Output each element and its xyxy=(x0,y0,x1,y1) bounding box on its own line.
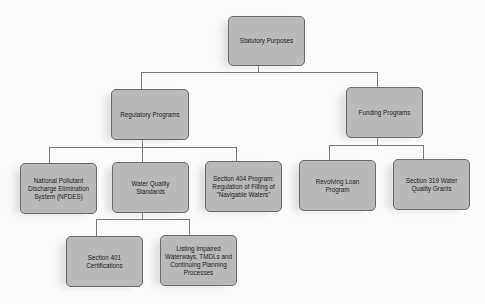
connector-wqs-bar xyxy=(96,219,189,220)
node-label: Statutory Purposes xyxy=(240,37,294,45)
node-regulatory-programs: Regulatory Programs xyxy=(111,89,189,140)
connector-to-npdes xyxy=(49,147,50,163)
node-label: Section 401 Certifications xyxy=(81,254,128,270)
node-listing-impaired: Listing Impaired Waterways, TMDLs and Co… xyxy=(160,235,237,286)
node-section-319: Section 319 Water Quality Grants xyxy=(393,159,470,210)
node-label: Section 404 Program: Regulation of Filli… xyxy=(210,175,277,199)
connector-to-listing xyxy=(189,219,190,235)
node-statutory-purposes: Statutory Purposes xyxy=(228,16,305,66)
connector-funding-bar xyxy=(329,145,423,146)
connector-to-wqs xyxy=(142,147,143,162)
connector-to-s319 xyxy=(423,145,424,159)
node-section-401: Section 401 Certifications xyxy=(66,236,143,287)
node-label: Regulatory Programs xyxy=(120,111,180,119)
connector-to-regulatory xyxy=(141,72,142,89)
node-label: Section 319 Water Quality Grants xyxy=(402,177,461,193)
connector-to-s401 xyxy=(96,219,97,236)
node-label: Listing Impaired Waterways, TMDLs and Co… xyxy=(165,245,232,277)
connector-to-s404 xyxy=(236,147,237,161)
connector-funding-stem xyxy=(377,138,378,145)
connector-to-funding xyxy=(377,72,378,87)
connector-to-revolving xyxy=(329,145,330,160)
node-label: Funding Programs xyxy=(359,109,411,117)
node-label: National Pollutant Discharge Elimination… xyxy=(25,177,92,201)
connector-root-bar xyxy=(141,72,377,73)
node-label: Water Quality Standards xyxy=(127,180,174,196)
connector-regulatory-stem xyxy=(142,140,143,147)
node-label: Revolving Loan Program xyxy=(312,178,363,194)
node-revolving-loan: Revolving Loan Program xyxy=(299,160,376,211)
node-npdes: National Pollutant Discharge Elimination… xyxy=(20,163,97,214)
node-funding-programs: Funding Programs xyxy=(346,87,423,138)
node-water-quality-standards: Water Quality Standards xyxy=(112,162,189,213)
node-section-404: Section 404 Program: Regulation of Filli… xyxy=(205,161,282,212)
